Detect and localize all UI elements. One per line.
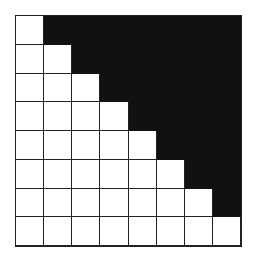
filled-cell <box>100 74 128 103</box>
filled-cell <box>185 45 213 74</box>
filled-cell <box>44 16 72 45</box>
empty-cell <box>100 217 128 246</box>
filled-cell <box>185 102 213 131</box>
empty-cell <box>16 74 44 103</box>
empty-cell <box>157 217 185 246</box>
filled-cell <box>157 45 185 74</box>
staircase-grid <box>15 15 242 247</box>
empty-cell <box>100 131 128 160</box>
empty-cell <box>16 189 44 218</box>
filled-cell <box>129 16 157 45</box>
filled-cell <box>157 102 185 131</box>
filled-cell <box>213 189 241 218</box>
empty-cell <box>16 131 44 160</box>
filled-cell <box>157 74 185 103</box>
empty-cell <box>16 102 44 131</box>
empty-cell <box>44 160 72 189</box>
empty-cell <box>129 189 157 218</box>
empty-cell <box>185 189 213 218</box>
empty-cell <box>16 45 44 74</box>
filled-cell <box>213 131 241 160</box>
filled-cell <box>185 16 213 45</box>
empty-cell <box>16 160 44 189</box>
empty-cell <box>72 102 100 131</box>
empty-cell <box>44 217 72 246</box>
empty-cell <box>44 74 72 103</box>
filled-cell <box>72 45 100 74</box>
filled-cell <box>157 131 185 160</box>
empty-cell <box>129 160 157 189</box>
empty-cell <box>100 189 128 218</box>
empty-cell <box>16 217 44 246</box>
empty-cell <box>100 160 128 189</box>
empty-cell <box>72 217 100 246</box>
empty-cell <box>100 102 128 131</box>
filled-cell <box>213 45 241 74</box>
filled-cell <box>72 16 100 45</box>
filled-cell <box>157 16 185 45</box>
filled-cell <box>213 16 241 45</box>
empty-cell <box>44 102 72 131</box>
empty-cell <box>213 217 241 246</box>
empty-cell <box>16 16 44 45</box>
empty-cell <box>44 131 72 160</box>
filled-cell <box>185 160 213 189</box>
filled-cell <box>100 16 128 45</box>
filled-cell <box>185 131 213 160</box>
filled-cell <box>129 102 157 131</box>
empty-cell <box>72 189 100 218</box>
empty-cell <box>72 131 100 160</box>
empty-cell <box>185 217 213 246</box>
filled-cell <box>100 45 128 74</box>
filled-cell <box>213 102 241 131</box>
empty-cell <box>129 131 157 160</box>
empty-cell <box>157 189 185 218</box>
empty-cell <box>44 45 72 74</box>
filled-cell <box>213 160 241 189</box>
filled-cell <box>213 74 241 103</box>
filled-cell <box>185 74 213 103</box>
filled-cell <box>129 74 157 103</box>
empty-cell <box>129 217 157 246</box>
filled-cell <box>129 45 157 74</box>
empty-cell <box>157 160 185 189</box>
empty-cell <box>72 160 100 189</box>
empty-cell <box>44 189 72 218</box>
empty-cell <box>72 74 100 103</box>
